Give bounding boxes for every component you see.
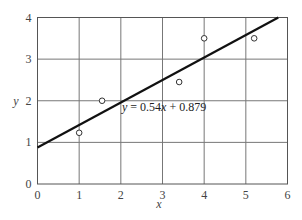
x-tick-labels: 0123456: [35, 188, 291, 202]
x-axis-label: x: [155, 197, 162, 211]
y-axis-label: y: [12, 94, 19, 108]
x-tick-label: 6: [285, 188, 291, 202]
data-point: [76, 130, 82, 136]
x-tick-label: 2: [118, 188, 124, 202]
y-tick-label: 3: [26, 52, 32, 66]
y-tick-label: 4: [26, 11, 32, 25]
x-tick-label: 1: [76, 188, 82, 202]
data-point: [251, 36, 257, 42]
x-tick-label: 0: [35, 188, 41, 202]
data-point: [99, 98, 105, 104]
y-tick-labels: 01234: [26, 11, 32, 192]
y-tick-label: 0: [26, 177, 32, 191]
y-tick-label: 2: [26, 94, 32, 108]
data-point: [201, 36, 207, 42]
data-points: [76, 36, 257, 136]
equation-annotation: y = 0.54x + 0.879: [121, 100, 206, 114]
x-tick-label: 5: [243, 188, 249, 202]
x-tick-label: 4: [201, 188, 207, 202]
scatter-chart: 0123456 01234 y = 0.54x + 0.879 x y: [0, 0, 302, 220]
data-point: [176, 79, 182, 85]
fit-line: [38, 18, 279, 148]
y-tick-label: 1: [26, 135, 32, 149]
